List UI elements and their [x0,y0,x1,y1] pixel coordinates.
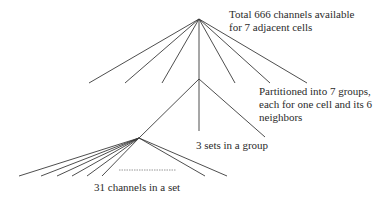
channel-branch [87,138,139,176]
group-branch [125,19,199,83]
sets-in-group-label: 3 sets in a group [196,139,268,152]
group-branch [89,19,199,83]
set-branch [139,79,199,138]
channels-in-set-label: 31 channels in a set [94,181,180,194]
level2-branches [139,79,265,138]
channel-branch [72,138,139,176]
set-branch [199,79,265,137]
total-channels-label: Total 666 channels available for 7 adjac… [229,8,354,34]
partitioned-groups-label: Partitioned into 7 groups, each for one … [259,85,372,124]
group-branch [162,19,199,83]
